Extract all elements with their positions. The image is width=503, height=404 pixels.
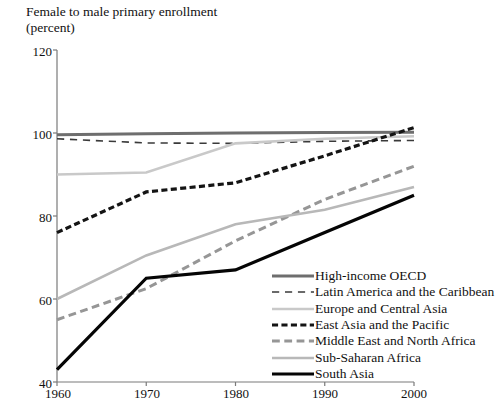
legend-line-icon <box>272 270 314 282</box>
x-axis-tick-1990: 1990 <box>295 386 355 402</box>
legend-item-label: High-income OECD <box>314 269 426 283</box>
legend-item-label: South Asia <box>314 367 374 381</box>
legend-item-south-asia[interactable]: South Asia <box>272 366 500 382</box>
x-axis-tick-2000: 2000 <box>384 386 444 402</box>
legend-line-icon <box>272 335 314 347</box>
legend-line-icon <box>272 286 314 298</box>
legend-item-middle-east-and-north-africa[interactable]: Middle East and North Africa <box>272 333 500 349</box>
y-axis-tick-120: 120 <box>22 44 52 60</box>
legend-item-europe-and-central-asia[interactable]: Europe and Central Asia <box>272 301 500 317</box>
legend-item-high-income-oecd[interactable]: High-income OECD <box>272 268 500 284</box>
y-axis-tick-60: 60 <box>22 293 52 309</box>
legend-item-sub-saharan-africa[interactable]: Sub-Saharan Africa <box>272 349 500 365</box>
legend-item-label: Latin America and the Caribbean <box>314 285 494 299</box>
legend-item-east-asia-and-the-pacific[interactable]: East Asia and the Pacific <box>272 317 500 333</box>
legend-line-icon <box>272 352 314 364</box>
legend-line-icon <box>272 368 314 380</box>
legend-line-icon <box>272 319 314 331</box>
y-axis-tick-80: 80 <box>22 210 52 226</box>
x-axis-tick-1980: 1980 <box>206 386 266 402</box>
chart-figure: Female to male primary enrollment (perce… <box>0 0 503 404</box>
legend-item-label: Europe and Central Asia <box>314 302 447 316</box>
legend-item-latin-america-and-the-caribbean[interactable]: Latin America and the Caribbean <box>272 284 500 300</box>
y-axis-tick-100: 100 <box>22 127 52 143</box>
legend-item-label: East Asia and the Pacific <box>314 318 449 332</box>
legend-item-label: Middle East and North Africa <box>314 334 475 348</box>
x-axis-tick-1970: 1970 <box>117 386 177 402</box>
chart-legend: High-income OECDLatin America and the Ca… <box>272 268 500 382</box>
series-line-high-income-oecd <box>57 132 414 134</box>
x-axis-tick-1960: 1960 <box>28 386 88 402</box>
legend-item-label: Sub-Saharan Africa <box>314 351 421 365</box>
legend-line-icon <box>272 303 314 315</box>
